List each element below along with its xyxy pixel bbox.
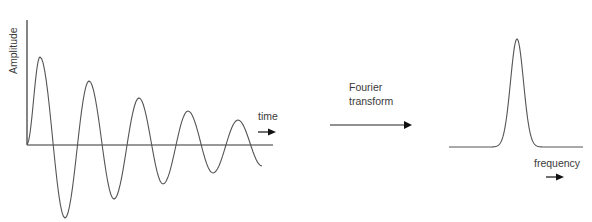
amplitude-axis-label: Amplitude — [7, 27, 20, 74]
fourier-label-line2: transform — [349, 95, 393, 108]
fourier-label-line1: Fourier — [349, 81, 382, 94]
time-axis-label: time — [258, 110, 278, 123]
time-arrow-icon — [258, 129, 276, 136]
frequency-arrow-icon — [546, 174, 564, 181]
damped-wave-curve — [27, 57, 262, 218]
fourier-diagram-canvas — [0, 0, 592, 222]
transform-arrow-icon — [330, 121, 412, 129]
frequency-peak-curve — [449, 39, 583, 147]
frequency-axis-label: frequency — [534, 157, 580, 170]
